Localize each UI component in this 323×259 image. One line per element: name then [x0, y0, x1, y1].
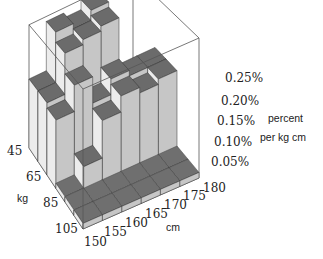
frame-edge — [133, 0, 199, 38]
z-axis-label-line2: per kg cm — [260, 131, 306, 143]
x-tick-label: 155 — [104, 225, 127, 239]
y-tick-label: 65 — [26, 170, 41, 184]
bars-group — [29, 0, 199, 229]
bar-front-face — [158, 71, 177, 160]
y-tick-label: 85 — [43, 196, 58, 210]
z-tick-label: 0.20% — [221, 94, 259, 108]
z-axis-label-line1: percent — [268, 112, 303, 124]
y-axis-label: kg — [17, 192, 28, 204]
z-tick-label: 0.25% — [225, 71, 263, 85]
bar-side-face — [47, 108, 56, 189]
z-tick-label: 0.10% — [214, 135, 252, 149]
bar-side-face — [38, 91, 47, 175]
bar-side-face — [29, 79, 38, 162]
histogram-3d-chart: 0.05%0.10%0.15%0.20%0.25%456585105150155… — [0, 0, 323, 259]
x-axis-label: cm — [166, 221, 180, 233]
y-tick-label: 105 — [55, 222, 78, 236]
z-tick-label: 0.05% — [211, 155, 249, 169]
z-tick-label: 0.15% — [217, 114, 255, 128]
x-tick-label: 180 — [203, 181, 226, 195]
y-tick-label: 45 — [7, 144, 22, 158]
bar-front-face — [121, 88, 140, 177]
